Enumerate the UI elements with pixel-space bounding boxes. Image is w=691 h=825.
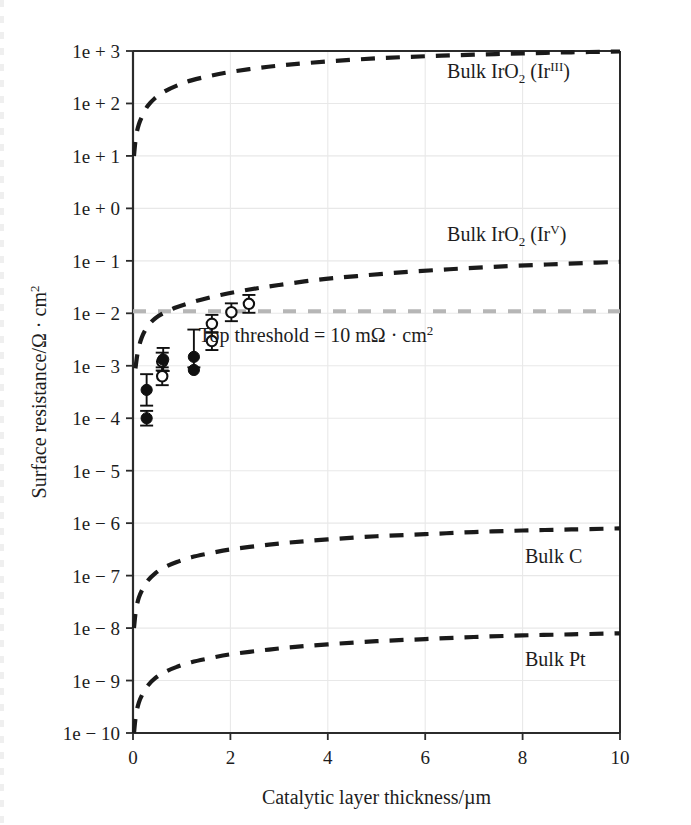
series-label-bulk-c: Bulk C bbox=[525, 545, 582, 567]
y-tick-label: 1e − 10 bbox=[63, 723, 120, 744]
threshold-annotation-label: Top threshold = 10 mΩ · cm2 bbox=[199, 323, 434, 347]
y-tick-label: 1e − 8 bbox=[72, 618, 120, 639]
x-axis-tick-labels: 0246810 bbox=[128, 747, 629, 768]
y-tick-label: 1e + 0 bbox=[72, 198, 120, 219]
x-tick-label: 10 bbox=[611, 747, 630, 768]
y-tick-label: 1e − 1 bbox=[72, 251, 120, 272]
series-label-bulk-iro2-irv: Bulk IrO2 (IrV) bbox=[447, 222, 566, 249]
y-tick-label: 1e − 3 bbox=[72, 356, 120, 377]
data-point-open bbox=[244, 299, 254, 309]
y-tick-label: 1e − 2 bbox=[72, 303, 120, 324]
y-tick-label: 1e + 1 bbox=[72, 146, 120, 167]
x-tick-label: 8 bbox=[518, 747, 528, 768]
data-point-open bbox=[226, 307, 236, 317]
y-tick-label: 1e + 2 bbox=[72, 93, 120, 114]
y-tick-label: 1e − 7 bbox=[72, 566, 120, 587]
chart-figure: 1e + 31e + 21e + 11e + 01e − 11e − 21e −… bbox=[0, 0, 691, 825]
surface-resistance-chart-svg: 1e + 31e + 21e + 11e + 01e − 11e − 21e −… bbox=[0, 0, 691, 825]
data-point-filled bbox=[141, 413, 152, 424]
x-tick-label: 6 bbox=[420, 747, 430, 768]
y-tick-label: 1e − 9 bbox=[72, 671, 120, 692]
series-label-bulk-pt: Bulk Pt bbox=[525, 648, 586, 670]
x-tick-label: 0 bbox=[128, 747, 138, 768]
data-point-filled bbox=[141, 384, 152, 395]
y-tick-label: 1e − 6 bbox=[72, 513, 120, 534]
x-tick-label: 4 bbox=[323, 747, 333, 768]
data-point-filled bbox=[188, 351, 199, 362]
data-point-filled bbox=[188, 364, 199, 375]
x-axis-title: Catalytic layer thickness/µm bbox=[262, 786, 492, 809]
x-tick-label: 2 bbox=[226, 747, 236, 768]
plot-area-background bbox=[133, 51, 620, 733]
y-axis-title: Surface resistance/Ω · cm2 bbox=[27, 286, 50, 499]
y-tick-label: 1e + 3 bbox=[72, 41, 120, 62]
y-tick-label: 1e − 4 bbox=[72, 408, 120, 429]
data-point-filled bbox=[158, 354, 169, 365]
data-point-open bbox=[157, 371, 167, 381]
y-axis-tick-labels: 1e + 31e + 21e + 11e + 01e − 11e − 21e −… bbox=[63, 41, 121, 744]
y-tick-label: 1e − 5 bbox=[72, 461, 120, 482]
threshold-label-text: Top threshold = 10 mΩ · cm2 bbox=[199, 323, 434, 347]
